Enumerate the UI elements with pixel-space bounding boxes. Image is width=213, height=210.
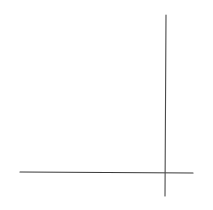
diagram-canvas (0, 0, 213, 210)
vertical-line (165, 15, 166, 196)
horizontal-line (20, 172, 193, 173)
crossing-lines-diagram (0, 0, 213, 210)
